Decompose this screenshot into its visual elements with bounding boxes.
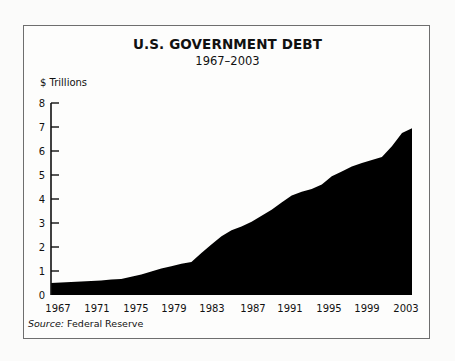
y-tick-label: 6 (39, 146, 45, 157)
x-tick-label: 1971 (84, 303, 109, 314)
area-chart: 012345678 196719711975197919831987199119… (0, 0, 455, 361)
x-tick-label: 1999 (354, 303, 379, 314)
x-tick-label: 1975 (123, 303, 148, 314)
x-tick-label: 1995 (316, 303, 341, 314)
y-tick-label: 7 (39, 122, 45, 133)
y-axis: 012345678 (39, 98, 59, 301)
source-label: Source: (28, 318, 64, 329)
source-note: Source: Federal Reserve (28, 318, 143, 329)
source-text: Federal Reserve (64, 318, 143, 329)
y-tick-label: 4 (39, 194, 45, 205)
area-fill (51, 128, 412, 295)
y-tick-label: 1 (39, 266, 45, 277)
y-tick-label: 5 (39, 170, 45, 181)
x-tick-label: 1967 (45, 303, 70, 314)
x-axis: 1967197119751979198319871991199519992003 (45, 303, 418, 314)
x-tick-label: 2003 (393, 303, 418, 314)
x-tick-label: 1979 (161, 303, 186, 314)
x-tick-label: 1983 (199, 303, 224, 314)
y-tick-label: 8 (39, 98, 45, 109)
y-tick-label: 0 (39, 290, 45, 301)
y-tick-label: 3 (39, 218, 45, 229)
x-tick-label: 1991 (277, 303, 302, 314)
x-tick-label: 1987 (240, 303, 265, 314)
y-tick-label: 2 (39, 242, 45, 253)
